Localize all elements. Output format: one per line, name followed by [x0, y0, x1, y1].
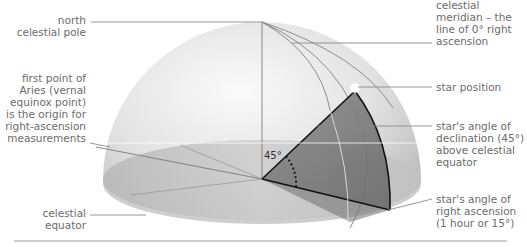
celestial-sphere-diagram: 45° north celestial pole first point of … — [0, 0, 527, 247]
label-celestial-meridian: celestial meridian – the line of 0° righ… — [436, 0, 512, 47]
label-star-position: star position — [436, 81, 501, 93]
star-icon — [352, 85, 359, 92]
label-right-ascension-angle: star's angle of right ascension (1 hour … — [436, 193, 516, 229]
label-celestial-equator: celestial equator — [43, 207, 86, 231]
label-first-point-of-aries: first point of Aries (vernal equinox poi… — [5, 72, 86, 144]
declination-angle-value: 45° — [264, 150, 282, 161]
label-north-celestial-pole: north celestial pole — [17, 14, 86, 38]
label-declination-angle: star's angle of declination (45°) above … — [436, 120, 524, 168]
